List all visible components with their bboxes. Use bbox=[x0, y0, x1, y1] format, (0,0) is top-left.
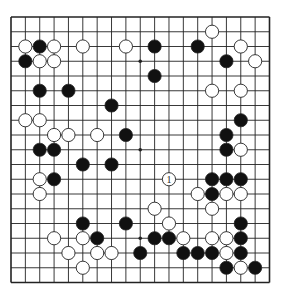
white-stone bbox=[234, 84, 247, 97]
white-stone bbox=[47, 128, 60, 141]
white-stone bbox=[76, 261, 89, 274]
star-point bbox=[138, 148, 142, 152]
black-stone bbox=[205, 187, 218, 200]
black-stone bbox=[33, 143, 46, 156]
black-stone bbox=[76, 217, 89, 230]
white-stone bbox=[33, 114, 46, 127]
white-stone bbox=[205, 202, 218, 215]
black-stone bbox=[220, 261, 233, 274]
black-stone bbox=[191, 40, 204, 53]
white-stone bbox=[234, 40, 247, 53]
black-stone bbox=[47, 143, 60, 156]
white-stone bbox=[148, 202, 161, 215]
white-stone bbox=[76, 232, 89, 245]
star-point bbox=[138, 236, 142, 240]
white-stone bbox=[33, 55, 46, 68]
white-stone bbox=[220, 232, 233, 245]
black-stone bbox=[19, 55, 32, 68]
black-stone bbox=[234, 232, 247, 245]
black-stone bbox=[205, 246, 218, 259]
black-stone bbox=[177, 246, 190, 259]
white-stone bbox=[220, 246, 233, 259]
white-stone bbox=[47, 232, 60, 245]
black-stone bbox=[47, 173, 60, 186]
black-stone bbox=[119, 128, 132, 141]
black-stone bbox=[33, 40, 46, 53]
white-stone bbox=[205, 232, 218, 245]
white-stone bbox=[105, 246, 118, 259]
white-stone bbox=[249, 55, 262, 68]
white-stone bbox=[162, 217, 175, 230]
white-stone bbox=[91, 128, 104, 141]
white-stone bbox=[205, 25, 218, 38]
white-stone bbox=[19, 114, 32, 127]
move-number-label: 1 bbox=[166, 174, 171, 185]
white-stone bbox=[234, 261, 247, 274]
black-stone bbox=[220, 173, 233, 186]
black-stone bbox=[105, 99, 118, 112]
black-stone bbox=[234, 246, 247, 259]
white-stone bbox=[234, 187, 247, 200]
black-stone bbox=[234, 114, 247, 127]
white-stone bbox=[234, 143, 247, 156]
black-stone bbox=[234, 217, 247, 230]
black-stone bbox=[205, 173, 218, 186]
black-stone bbox=[119, 217, 132, 230]
black-stone bbox=[162, 232, 175, 245]
star-point bbox=[138, 59, 142, 63]
black-stone bbox=[62, 84, 75, 97]
white-stone bbox=[220, 187, 233, 200]
white-stone bbox=[47, 40, 60, 53]
black-stone bbox=[105, 158, 118, 171]
white-stone bbox=[33, 173, 46, 186]
white-stone bbox=[47, 55, 60, 68]
black-stone bbox=[134, 246, 147, 259]
black-stone bbox=[148, 69, 161, 82]
white-stone bbox=[33, 187, 46, 200]
black-stone bbox=[33, 84, 46, 97]
black-stone bbox=[91, 232, 104, 245]
go-board: 1 bbox=[0, 0, 282, 294]
white-stone bbox=[191, 187, 204, 200]
black-stone bbox=[220, 55, 233, 68]
white-stone bbox=[177, 232, 190, 245]
white-stone bbox=[205, 84, 218, 97]
black-stone bbox=[220, 143, 233, 156]
black-stone bbox=[148, 232, 161, 245]
white-stone bbox=[62, 246, 75, 259]
black-stone bbox=[76, 158, 89, 171]
go-board-diagram: 1 bbox=[0, 0, 282, 294]
white-stone bbox=[76, 40, 89, 53]
white-stone bbox=[19, 40, 32, 53]
black-stone bbox=[234, 173, 247, 186]
black-stone bbox=[249, 261, 262, 274]
numbered-stone: 1 bbox=[162, 173, 175, 186]
black-stone bbox=[220, 128, 233, 141]
white-stone bbox=[119, 40, 132, 53]
white-stone bbox=[91, 246, 104, 259]
black-stone bbox=[191, 246, 204, 259]
white-stone bbox=[62, 128, 75, 141]
black-stone bbox=[148, 40, 161, 53]
